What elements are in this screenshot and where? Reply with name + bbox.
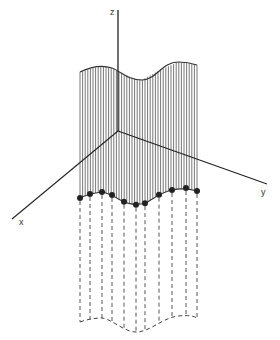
diagram-canvas: z x y xyxy=(0,0,280,340)
surface-hatching xyxy=(80,62,197,205)
surface-top-curve xyxy=(80,62,197,80)
y-axis-label: y xyxy=(261,187,266,197)
projected-bottom-curve xyxy=(80,316,197,332)
z-axis-label: z xyxy=(110,7,115,17)
y-axis xyxy=(118,131,267,184)
dashed-projections xyxy=(80,191,197,332)
surface-bottom-curve xyxy=(80,189,197,204)
x-axis-label: x xyxy=(19,217,24,227)
